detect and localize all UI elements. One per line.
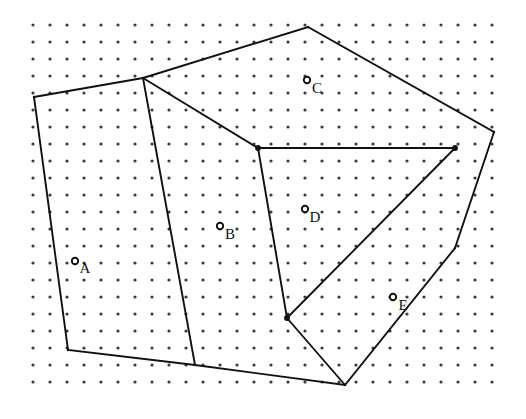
lattice-dot xyxy=(235,23,238,26)
lattice-dot xyxy=(167,380,170,383)
lattice-dot xyxy=(405,278,408,281)
lattice-dot xyxy=(354,91,357,94)
lattice-dot xyxy=(269,346,272,349)
lattice-dot xyxy=(371,363,374,366)
lattice-dot xyxy=(133,57,136,60)
lattice-dot xyxy=(99,125,102,128)
lattice-dot xyxy=(133,108,136,111)
lattice-dot xyxy=(201,295,204,298)
lattice-dot xyxy=(320,363,323,366)
lattice-dot xyxy=(269,23,272,26)
lattice-dot xyxy=(422,210,425,213)
lattice-dot xyxy=(371,380,374,383)
lattice-dot xyxy=(133,278,136,281)
site-marker-a xyxy=(72,258,78,264)
lattice-dot xyxy=(388,363,391,366)
lattice-dot xyxy=(150,57,153,60)
lattice-dot xyxy=(218,210,221,213)
lattice-dot xyxy=(116,125,119,128)
lattice-dot xyxy=(371,193,374,196)
lattice-dot xyxy=(150,346,153,349)
lattice-dot xyxy=(167,108,170,111)
lattice-dot xyxy=(286,193,289,196)
lattice-dot xyxy=(252,210,255,213)
lattice-dot xyxy=(354,363,357,366)
lattice-dot xyxy=(269,108,272,111)
lattice-dot xyxy=(65,227,68,230)
lattice-dot xyxy=(48,380,51,383)
lattice-dot xyxy=(65,261,68,264)
lattice-dot xyxy=(252,159,255,162)
lattice-dot xyxy=(201,108,204,111)
lattice-dot xyxy=(82,23,85,26)
lattice-dot xyxy=(167,74,170,77)
lattice-dot xyxy=(371,159,374,162)
lattice-dot xyxy=(337,108,340,111)
lattice-dot xyxy=(201,346,204,349)
lattice-dot xyxy=(286,23,289,26)
lattice-dot xyxy=(388,261,391,264)
lattice-dot xyxy=(167,176,170,179)
lattice-dot xyxy=(371,278,374,281)
lattice-dot xyxy=(405,363,408,366)
lattice-dot xyxy=(303,329,306,332)
lattice-dot xyxy=(320,57,323,60)
lattice-dot xyxy=(269,74,272,77)
lattice-dot xyxy=(31,329,34,332)
lattice-dot xyxy=(252,380,255,383)
lattice-dot xyxy=(439,380,442,383)
lattice-dot xyxy=(48,193,51,196)
lattice-dot xyxy=(473,40,476,43)
lattice-dot xyxy=(65,23,68,26)
lattice-dot xyxy=(218,176,221,179)
edge-n3-n2 xyxy=(287,148,455,318)
lattice-dot xyxy=(184,295,187,298)
lattice-dot xyxy=(48,159,51,162)
lattice-dot xyxy=(235,329,238,332)
hull-vertex-h1 xyxy=(33,96,35,98)
lattice-dot xyxy=(99,312,102,315)
lattice-dot xyxy=(490,244,493,247)
lattice-dot xyxy=(388,380,391,383)
lattice-dot xyxy=(388,40,391,43)
lattice-dot xyxy=(422,159,425,162)
lattice-dot xyxy=(184,261,187,264)
lattice-dot xyxy=(269,380,272,383)
lattice-dot xyxy=(371,57,374,60)
lattice-dot xyxy=(354,346,357,349)
lattice-dot xyxy=(201,261,204,264)
lattice-dot xyxy=(286,74,289,77)
lattice-dot xyxy=(99,23,102,26)
lattice-dot xyxy=(184,142,187,145)
lattice-dot xyxy=(405,74,408,77)
lattice-dot xyxy=(320,346,323,349)
lattice-dot xyxy=(354,40,357,43)
lattice-dot xyxy=(337,176,340,179)
lattice-dot xyxy=(320,108,323,111)
lattice-dot xyxy=(116,142,119,145)
lattice-dot xyxy=(65,40,68,43)
lattice-dot xyxy=(269,244,272,247)
lattice-dot xyxy=(371,142,374,145)
lattice-dot xyxy=(422,40,425,43)
lattice-dot xyxy=(388,57,391,60)
lattice-dot xyxy=(473,329,476,332)
lattice-dot xyxy=(422,244,425,247)
lattice-dot xyxy=(388,91,391,94)
lattice-dot xyxy=(490,380,493,383)
lattice-dot xyxy=(99,193,102,196)
lattice-dot xyxy=(405,346,408,349)
lattice-dot xyxy=(116,57,119,60)
lattice-dot xyxy=(286,244,289,247)
lattice-dot xyxy=(405,125,408,128)
lattice-dot xyxy=(82,193,85,196)
lattice-dot xyxy=(218,159,221,162)
lattice-dot xyxy=(31,108,34,111)
lattice-dot xyxy=(388,176,391,179)
lattice-dot xyxy=(388,108,391,111)
lattice-dot xyxy=(167,142,170,145)
lattice-dot xyxy=(167,329,170,332)
lattice-dot xyxy=(133,142,136,145)
lattice-dot xyxy=(82,108,85,111)
lattice-dot xyxy=(473,57,476,60)
